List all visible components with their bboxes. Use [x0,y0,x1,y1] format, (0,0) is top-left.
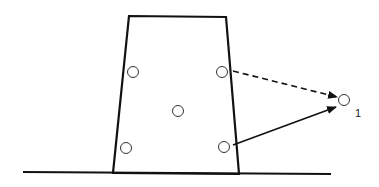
labels-layer: 1 [355,107,361,119]
points-layer [121,67,350,154]
arrows-layer [233,71,337,145]
point-center [173,106,184,117]
point-target [339,95,350,106]
point-lower-right [219,142,230,153]
point-upper-left [128,67,139,78]
point-upper-right [217,67,228,78]
diagram-canvas: 1 [0,0,379,187]
point-lower-left [121,143,132,154]
solid-arrow [233,107,336,145]
target-label: 1 [355,107,361,119]
dashed-arrow [233,71,337,97]
